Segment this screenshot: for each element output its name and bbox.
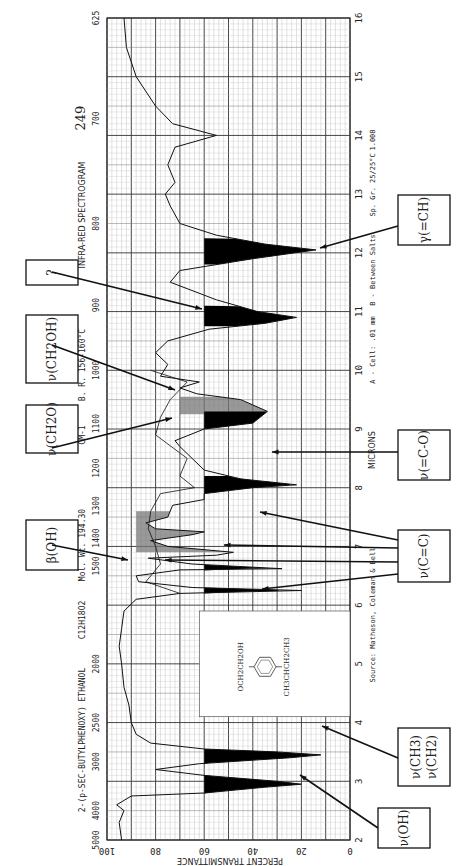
transmittance-tick: 80 <box>150 846 161 856</box>
micron-tick: 11 <box>354 306 364 317</box>
wavenumber-tick: 1000 <box>92 360 101 379</box>
micron-tick: 10 <box>354 365 364 376</box>
micron-tick: 7 <box>354 544 364 549</box>
y-axis-label: PERCENT TRANSMITTANCE <box>177 856 283 865</box>
formula: C12H18O2 <box>78 601 87 640</box>
boiling-point: B. R. 156-160°C <box>78 329 87 401</box>
wavenumber-tick: 1400 <box>92 528 101 547</box>
between-salts: B - Between Salts <box>369 234 377 306</box>
wavenumber-tick: 700 <box>92 111 101 126</box>
micron-tick: 16 <box>354 13 364 24</box>
structure-top-group: OCH2CH2OH <box>237 642 245 691</box>
microns-label: MICRONS <box>368 431 377 469</box>
wavenumber-tick: 1500 <box>92 556 101 575</box>
spectrum-chart: 2345678910111213141516500040003000250020… <box>0 0 470 866</box>
annotation-label: ν(CH2) <box>425 735 439 779</box>
micron-tick: 6 <box>354 602 364 607</box>
source-credit: Source: Matheson, Coleman & Bell <box>369 548 377 683</box>
transmittance-tick: 60 <box>199 846 210 856</box>
micron-tick: 9 <box>354 426 364 431</box>
wavenumber-tick: 1200 <box>92 458 101 477</box>
chart-grid <box>107 18 350 840</box>
wavenumber-tick: 3000 <box>92 752 101 771</box>
wavenumber-tick: 4000 <box>92 801 101 820</box>
annotation-label: ν(C=C) <box>417 533 431 578</box>
ir-spectrogram-figure: 2345678910111213141516500040003000250020… <box>0 0 470 866</box>
wavenumber-tick: 900 <box>92 298 101 313</box>
micron-tick: 14 <box>354 130 364 141</box>
spectrogram-title: INFRA-RED SPECTROGRAM <box>78 162 87 269</box>
micron-tick: 8 <box>354 485 364 490</box>
transmittance-tick: 20 <box>296 846 307 856</box>
transmittance-tick: 0 <box>347 846 352 856</box>
compound-name: 2-(p-SEC-BUTYLPHENOXY) ETHANOL <box>78 668 87 813</box>
wavenumber-tick: 2500 <box>92 713 101 732</box>
micron-tick: 12 <box>354 247 364 258</box>
micron-tick: 3 <box>354 779 364 784</box>
micron-tick: 13 <box>354 189 364 200</box>
micron-tick: 4 <box>354 720 364 725</box>
micron-tick: 15 <box>354 71 364 82</box>
micron-tick: 2 <box>354 837 364 842</box>
specific-gravity: Sp. Gr. 25/25°C <box>369 153 377 216</box>
wavenumber-tick: 1100 <box>92 414 101 433</box>
transmittance-tick: 40 <box>247 846 258 856</box>
wavenumber-tick: 1300 <box>92 496 101 515</box>
annotation-label: ν(=C-O) <box>417 430 431 480</box>
spectrum-number: 249 <box>73 106 88 131</box>
wavenumber-tick: 625 <box>92 11 101 26</box>
cell-info: A - Cell: .01 mm <box>369 316 377 383</box>
specific-gravity-value: 1.008 <box>369 129 377 150</box>
structure-bottom-group: CH3CHCH2CH3 <box>283 637 291 696</box>
annotation-label: γ(=CH) <box>417 197 431 243</box>
transmittance-tick: 100 <box>99 846 115 856</box>
annotation-label: ν(CH3) <box>409 735 423 779</box>
wavenumber-tick: 800 <box>92 216 101 231</box>
molecular-weight: Mol. Wt. 194.30 <box>78 509 87 581</box>
annotation-label: ν(CH2OH) <box>45 317 59 381</box>
annotation-box <box>398 728 450 786</box>
annotation-label: ν(OH) <box>397 810 411 847</box>
micron-tick: 5 <box>354 661 364 666</box>
wavenumber-tick: 2000 <box>92 654 101 673</box>
